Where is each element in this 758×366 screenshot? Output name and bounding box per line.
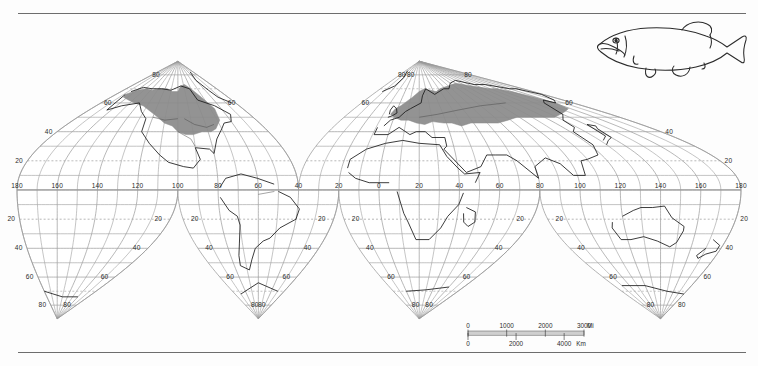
pike-fish-illustration (586, 18, 754, 80)
graticule-label: 20 (516, 215, 524, 222)
graticule-label: 80 (425, 301, 433, 308)
graticule-label: 160 (51, 182, 63, 189)
graticule-label: 80 (214, 182, 222, 189)
scale-bar: 0100020003000Mi020004000Km (466, 322, 594, 347)
graticule-label: 40 (295, 182, 303, 189)
graticule-label: 60 (26, 273, 34, 280)
graticule-label: 60 (254, 182, 262, 189)
graticule-label: 0 (377, 182, 381, 189)
scale-label-miles: 2000 (538, 322, 553, 329)
graticule-label: 20 (725, 157, 733, 164)
scale-label-km: 4000 (557, 340, 572, 347)
graticule-label: 40 (456, 182, 464, 189)
graticule-label: 80 (678, 301, 686, 308)
graticule-label: 80 (63, 301, 71, 308)
scale-label-km: 0 (466, 340, 470, 347)
graticule-label: 20 (335, 182, 343, 189)
graticule-label: 120 (615, 182, 627, 189)
graticule-label: 20 (15, 157, 23, 164)
graticule-label: 60 (565, 99, 573, 106)
graticule-label: 80 (398, 71, 406, 78)
graticule-label: 20 (191, 215, 199, 222)
graticule-label: 40 (15, 244, 23, 251)
scale-bar-track (468, 331, 584, 335)
graticule-label: 80 (407, 71, 415, 78)
graticule-label: 140 (655, 182, 667, 189)
scale-unit-km: Km (576, 340, 586, 347)
graticule-label: 40 (205, 244, 213, 251)
graticule-label: 80 (152, 71, 160, 78)
graticule-label: 180 (11, 182, 23, 189)
projection-lobe (339, 190, 540, 319)
graticule-label: 60 (104, 99, 112, 106)
graticule-label: 40 (366, 244, 374, 251)
graticule-label: 160 (695, 182, 707, 189)
graticule-label: 80 (536, 182, 544, 189)
graticule-label: 60 (228, 99, 236, 106)
graticule-label: 20 (352, 215, 360, 222)
graticule-label: 80 (39, 301, 47, 308)
graticule-label: 140 (92, 182, 104, 189)
scale-label-km: 2000 (509, 340, 524, 347)
scale-unit-miles: Mi (587, 322, 594, 329)
graticule-label: 40 (725, 244, 733, 251)
graticule-label: 60 (496, 182, 504, 189)
graticule-label: 40 (133, 244, 141, 251)
graticule-label: 20 (154, 215, 162, 222)
graticule-label: 20 (740, 215, 748, 222)
bottom-divider-rule (18, 352, 746, 353)
graticule-label: 60 (226, 273, 234, 280)
scale-label-miles: 0 (466, 322, 470, 329)
graticule-label: 40 (304, 244, 312, 251)
scale-label-miles: 1000 (500, 322, 515, 329)
top-divider-rule (18, 13, 746, 14)
figure-page: 1801601401201008060402002040608010012014… (0, 0, 758, 366)
graticule-label: 60 (283, 273, 291, 280)
projection-lobe (540, 190, 741, 319)
graticule-label: 60 (387, 273, 395, 280)
graticule-label: 100 (574, 182, 586, 189)
graticule-label: 80 (258, 301, 266, 308)
graticule-label: 60 (609, 273, 617, 280)
graticule-label: 40 (495, 244, 503, 251)
graticule-label: 40 (665, 128, 673, 135)
graticule-label: 20 (415, 182, 423, 189)
graticule-label: 20 (556, 215, 564, 222)
graticule-label: 40 (45, 128, 53, 135)
projection-lobe (17, 190, 178, 319)
graticule-label: 180 (735, 182, 747, 189)
graticule-label: 60 (703, 273, 711, 280)
graticule-label: 20 (318, 215, 326, 222)
graticule-label: 80 (647, 301, 655, 308)
projection-lobe (299, 61, 741, 190)
graticule-label: 40 (577, 244, 585, 251)
graticule-label: 120 (132, 182, 144, 189)
graticule-label: 60 (463, 273, 471, 280)
graticule-label: 80 (464, 71, 472, 78)
graticule-label: 80 (412, 301, 420, 308)
graticule-label: 60 (101, 273, 109, 280)
graticule-label: 20 (7, 215, 15, 222)
graticule-label: 100 (172, 182, 184, 189)
graticule-label: 60 (362, 99, 370, 106)
